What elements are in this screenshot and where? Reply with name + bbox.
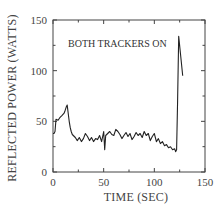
- reflected-power-line: [53, 36, 183, 152]
- x-tick-label: 150: [197, 176, 214, 188]
- y-tick-label: 50: [36, 115, 48, 127]
- y-tick-label: 100: [31, 65, 48, 77]
- reflected-power-chart: 050100150050100150 BOTH TRACKERS ON TIME…: [0, 0, 224, 216]
- x-tick-label: 0: [50, 176, 56, 188]
- x-axis-title: TIME (SEC): [104, 190, 168, 204]
- x-tick-label: 50: [98, 176, 110, 188]
- y-axis-title: REFLECTED POWER (WATTS): [5, 14, 19, 181]
- y-tick-label: 0: [42, 166, 48, 178]
- annotation-both-trackers-on: BOTH TRACKERS ON: [68, 38, 167, 49]
- y-tick-label: 150: [31, 14, 48, 26]
- x-tick-label: 100: [146, 176, 163, 188]
